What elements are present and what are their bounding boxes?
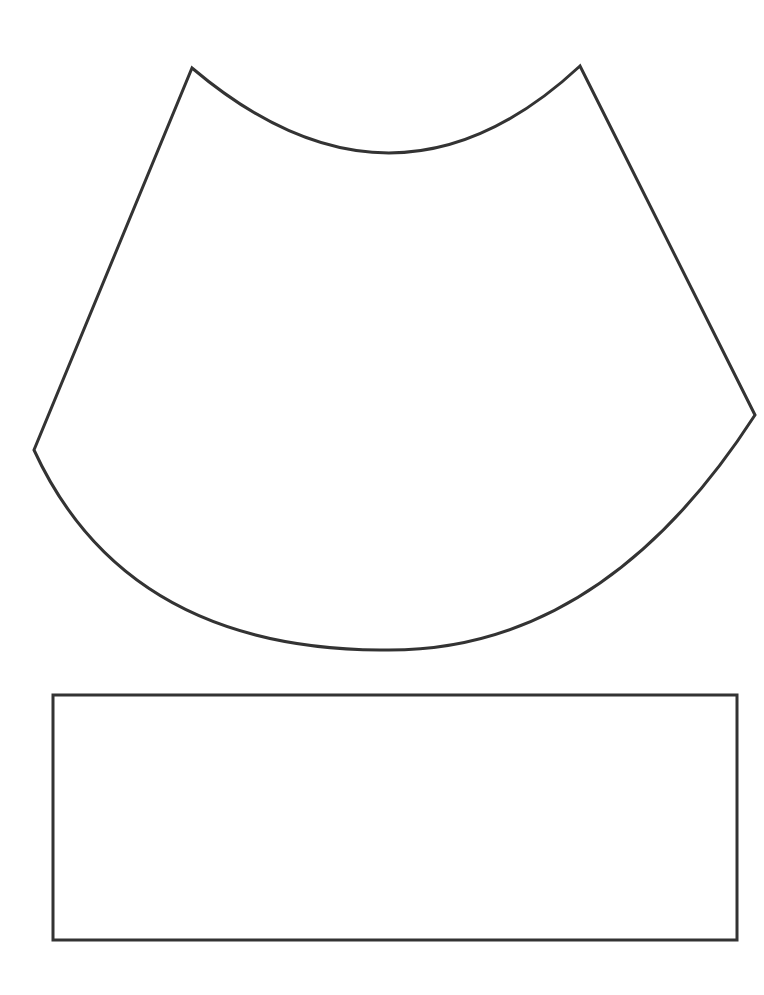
diagram-canvas bbox=[0, 0, 764, 995]
annular-sector-shape bbox=[34, 66, 755, 650]
cone-net-diagram bbox=[0, 0, 764, 995]
rectangle-shape bbox=[53, 695, 737, 940]
